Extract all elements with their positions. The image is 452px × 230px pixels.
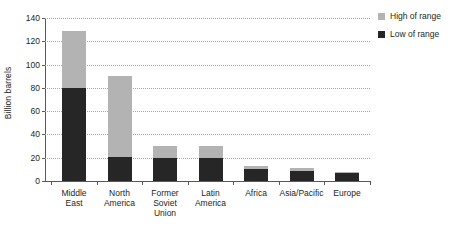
gridline-60 [45, 111, 370, 112]
x-tick-label-line: Europe [318, 188, 376, 198]
y-tick-mark-80 [42, 88, 45, 89]
gridline-80 [45, 88, 370, 89]
x-tick-mark [97, 181, 98, 185]
bar-chart: Billion barrels 020406080100120140 Middl… [0, 0, 452, 230]
x-tick-mark [51, 181, 52, 185]
y-tick-mark-100 [42, 65, 45, 66]
y-tick-mark-40 [42, 134, 45, 135]
y-axis-title: Billion barrels [0, 0, 16, 185]
bar-segment-high [108, 76, 132, 156]
y-axis-title-label: Billion barrels [3, 66, 13, 119]
bar-former-soviet-union[interactable] [153, 146, 177, 181]
bar-segment-high [199, 146, 223, 158]
x-tick-mark [188, 181, 189, 185]
legend-item[interactable]: High of range [378, 12, 452, 21]
legend-item[interactable]: Low of range [378, 30, 452, 39]
bar-segment-high [153, 146, 177, 158]
x-tick-label-line: Union [136, 208, 194, 218]
x-tick-mark [142, 181, 143, 185]
x-tick-mark [324, 181, 325, 185]
bar-middle-east[interactable] [62, 31, 86, 181]
y-tick-mark-60 [42, 111, 45, 112]
y-tick-label: 0 [16, 177, 40, 186]
x-tick-label: Europe [318, 188, 376, 198]
y-tick-mark-140 [42, 18, 45, 19]
y-tick-label: 100 [16, 61, 40, 70]
bar-segment-low [244, 169, 268, 181]
bar-segment-low [290, 171, 314, 181]
x-tick-mark [370, 181, 371, 185]
bar-segment-low [108, 157, 132, 181]
y-tick-label: 60 [16, 107, 40, 116]
y-tick-mark-120 [42, 41, 45, 42]
bar-segment-high [62, 31, 86, 88]
legend-label: High of range [390, 12, 441, 21]
gridline-0 [45, 181, 370, 182]
x-tick-label-line: America [182, 198, 240, 208]
bar-latin-america[interactable] [199, 146, 223, 181]
bar-segment-low [62, 88, 86, 181]
y-tick-mark-0 [42, 181, 45, 182]
y-tick-label: 140 [16, 14, 40, 23]
legend-swatch-icon [378, 31, 385, 38]
gridline-140 [45, 18, 370, 19]
legend-swatch-icon [378, 13, 385, 20]
y-tick-label: 40 [16, 130, 40, 139]
bar-segment-low [153, 158, 177, 181]
bar-segment-low [335, 173, 359, 181]
gridline-120 [45, 41, 370, 42]
gridline-100 [45, 65, 370, 66]
plot-area [45, 18, 370, 181]
bar-segment-low [199, 158, 223, 181]
bar-asia-pacific[interactable] [290, 168, 314, 181]
bar-africa[interactable] [244, 166, 268, 181]
y-tick-label: 20 [16, 154, 40, 163]
x-tick-mark [279, 181, 280, 185]
x-tick-mark [233, 181, 234, 185]
y-tick-mark-20 [42, 158, 45, 159]
y-tick-label: 120 [16, 37, 40, 46]
bar-europe[interactable] [335, 172, 359, 181]
bar-north-america[interactable] [108, 76, 132, 181]
y-tick-label: 80 [16, 84, 40, 93]
gridline-40 [45, 134, 370, 135]
chart-legend: High of rangeLow of range [378, 12, 452, 48]
legend-label: Low of range [390, 30, 439, 39]
